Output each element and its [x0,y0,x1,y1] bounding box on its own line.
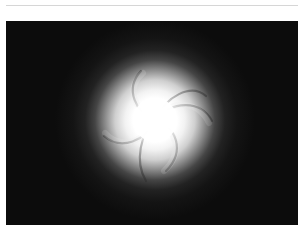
divider [6,5,298,6]
spiral-arms [6,21,298,225]
page [0,0,304,225]
spiral-vortex-image [6,21,298,225]
